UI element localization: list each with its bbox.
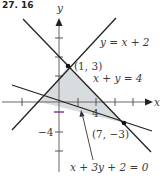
vertex-label: (7, −3) bbox=[92, 128, 129, 140]
graph: 27. 16 y x 4 −4 y = x + 2 x + y = 4 x + … bbox=[0, 0, 163, 179]
vertex-label: (1, 3) bbox=[74, 60, 102, 72]
x-tick-label: 4 bbox=[92, 107, 99, 119]
line-label-x-plus-3y-plus-2-eq-0: x + 3y + 2 = 0 bbox=[70, 161, 149, 173]
y-axis-label: y bbox=[56, 2, 64, 14]
x-axis-arrow-icon bbox=[145, 99, 153, 106]
vertex-point bbox=[66, 64, 71, 69]
problem-label: 27. 16 bbox=[2, 0, 34, 10]
x-axis-label: x bbox=[154, 96, 160, 108]
line-label-x-plus-y-eq-4: x + y = 4 bbox=[93, 72, 142, 84]
y-tick-label: −4 bbox=[38, 126, 54, 138]
line-label-y-eq-x-plus-2: y = x + 2 bbox=[99, 36, 150, 48]
y-axis-arrow-icon bbox=[56, 18, 63, 26]
vertex-point bbox=[122, 121, 127, 126]
